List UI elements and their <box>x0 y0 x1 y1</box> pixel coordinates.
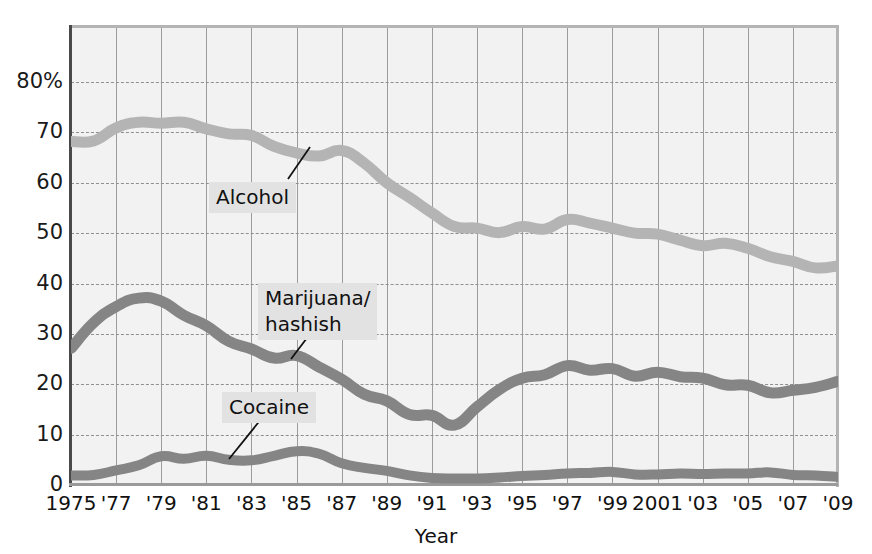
gridline-vertical <box>116 27 117 485</box>
gridline-horizontal <box>71 284 838 286</box>
x-axis-tick-label: '87 <box>326 492 357 514</box>
gridline-vertical <box>658 27 659 485</box>
gridline-vertical <box>793 27 794 485</box>
gridline-horizontal <box>71 334 838 336</box>
x-axis-line <box>69 483 838 486</box>
x-axis-tick-label: 1975 <box>46 492 97 514</box>
gridline-vertical <box>703 27 704 485</box>
gridline-horizontal <box>71 132 838 134</box>
x-axis-tick-label: '81 <box>191 492 222 514</box>
x-axis-tick-label: 2001 <box>632 492 683 514</box>
y-axis-tick-label: 10 <box>36 424 63 445</box>
gridline-vertical <box>477 27 478 485</box>
annotation-cocaine: Cocaine <box>222 392 316 423</box>
gridline-vertical <box>567 27 568 485</box>
x-axis-tick-label: '07 <box>777 492 808 514</box>
x-axis-tick-label: '85 <box>281 492 312 514</box>
x-axis-label: Year <box>0 524 872 548</box>
x-axis-tick-label: '77 <box>101 492 132 514</box>
gridline-vertical <box>206 27 207 485</box>
y-axis-line <box>69 25 72 487</box>
y-axis-tick-label: 20 <box>36 373 63 394</box>
gridline-vertical <box>522 27 523 485</box>
x-axis-tick-label: '83 <box>236 492 267 514</box>
gridline-horizontal <box>71 233 838 235</box>
x-axis-tick-label: '79 <box>146 492 177 514</box>
plot-border-top <box>71 25 838 28</box>
gridline-vertical <box>748 27 749 485</box>
gridline-vertical <box>612 27 613 485</box>
x-axis-tick-label: '97 <box>552 492 583 514</box>
x-axis-tick-label: '95 <box>507 492 538 514</box>
x-axis-tick-label: '05 <box>732 492 763 514</box>
x-axis-tick-label: '99 <box>597 492 628 514</box>
gridline-vertical <box>161 27 162 485</box>
gridline-horizontal <box>71 82 838 84</box>
gridline-horizontal <box>71 435 838 437</box>
plot-area <box>71 27 838 485</box>
x-axis-tick-label: '03 <box>687 492 718 514</box>
y-axis-tick-label: 60 <box>36 172 63 193</box>
y-axis-tick-label: 40 <box>36 273 63 294</box>
annotation-alcohol: Alcohol <box>209 182 296 213</box>
x-axis-tick-label: '91 <box>416 492 447 514</box>
gridline-vertical <box>342 27 343 485</box>
plot-border-right <box>836 25 839 487</box>
y-axis-tick-label: 30 <box>36 323 63 344</box>
y-axis-ticks: 01020304050607080% <box>0 0 63 554</box>
y-axis-tick-label: 50 <box>36 222 63 243</box>
x-axis-tick-label: '09 <box>823 492 854 514</box>
gridline-horizontal <box>71 384 838 386</box>
y-axis-tick-label: 70 <box>36 121 63 142</box>
gridline-vertical <box>387 27 388 485</box>
gridline-vertical <box>432 27 433 485</box>
gridline-horizontal <box>71 183 838 185</box>
chart-container: 01020304050607080% 1975'77'79'81'83'85'8… <box>0 0 872 554</box>
annotation-marijuana-hashish: Marijuana/ hashish <box>258 283 377 340</box>
x-axis-tick-label: '89 <box>371 492 402 514</box>
x-axis-tick-label: '93 <box>462 492 493 514</box>
y-axis-tick-label: 80% <box>16 71 63 92</box>
